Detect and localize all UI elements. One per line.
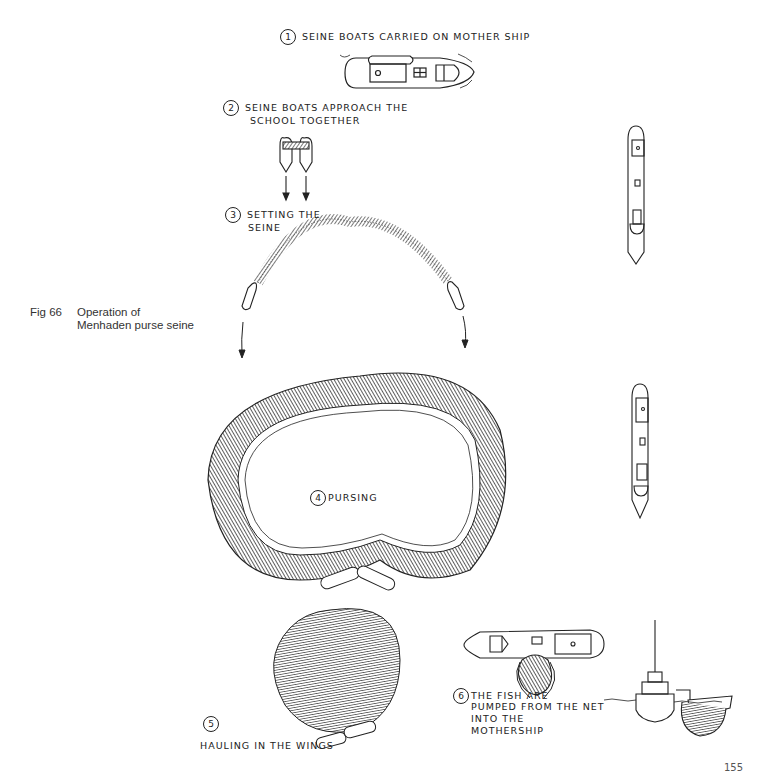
- page-number: 155: [724, 762, 743, 771]
- step-2-label: 2SEINE BOATS APPROACH THE: [223, 100, 408, 116]
- step-6-text-line1: THE FISH ARE: [471, 690, 549, 701]
- caption-line-2: Menhaden purse seine: [30, 319, 194, 332]
- step-1-text: SEINE BOATS CARRIED ON MOTHER SHIP: [302, 31, 530, 42]
- step-3-number: 3: [225, 207, 241, 223]
- step-6-text-line3: INTO THE: [471, 713, 524, 725]
- step-3-text-line2: SEINE: [248, 222, 281, 234]
- hauling-net-step5: [274, 609, 400, 750]
- seine-arc-step3: [239, 219, 468, 358]
- mother-ship-vertical-lower: [632, 384, 648, 518]
- step-2-text-line1: SEINE BOATS APPROACH THE: [245, 102, 408, 113]
- step-5-number-wrap: 5: [203, 716, 225, 732]
- step-3-label: 3SETTING THE: [225, 207, 321, 223]
- pursing-net-step4: [208, 373, 506, 592]
- step-2-text-line2: SCHOOL TOGETHER: [250, 115, 360, 127]
- mother-ship-vertical-upper: [628, 126, 644, 264]
- step-1-label: 1SEINE BOATS CARRIED ON MOTHER SHIP: [280, 29, 530, 45]
- step-5-text: HAULING IN THE WINGS: [200, 740, 334, 752]
- step-4-label: 4PURSING: [310, 490, 378, 506]
- step-6-number: 6: [453, 688, 469, 704]
- figure-caption: Fig 66Operation of Menhaden purse seine: [30, 306, 194, 332]
- step-4-number: 4: [310, 490, 326, 506]
- mother-ship-step1: [340, 54, 474, 88]
- figure-number: Fig 66: [30, 306, 77, 319]
- step-6-text-line4: MOTHERSHIP: [471, 725, 544, 737]
- step-3-text-line1: SETTING THE: [247, 209, 321, 220]
- seine-boats-step2: [280, 138, 312, 200]
- caption-line-1: Operation of: [77, 306, 140, 318]
- step-5-number: 5: [203, 716, 219, 732]
- mother-ship-step6-side: [604, 620, 732, 736]
- step-6-text-line2: PUMPED FROM THE NET: [471, 701, 605, 713]
- step-1-number: 1: [280, 29, 296, 45]
- step-2-number: 2: [223, 100, 239, 116]
- step-4-text: PURSING: [328, 492, 378, 503]
